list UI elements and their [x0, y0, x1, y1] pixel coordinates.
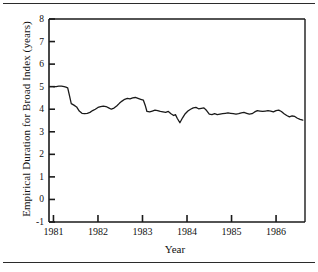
x-tick-label-1984: 1984 — [167, 226, 207, 237]
y-axis-title: Empirical Duration for Broad Index (year… — [20, 14, 32, 224]
chart-plot-area: 876543210-1 198119821983198419851986 Emp… — [0, 0, 318, 272]
x-tick-label-1983: 1983 — [122, 226, 162, 237]
x-tick-label-1986: 1986 — [256, 226, 296, 237]
x-tick-label-1985: 1985 — [212, 226, 252, 237]
x-tick-label-1981: 1981 — [33, 226, 73, 237]
x-tick-label-1982: 1982 — [78, 226, 118, 237]
axes-group — [49, 19, 305, 222]
data-series-line — [53, 86, 302, 123]
x-axis-title: Year — [44, 243, 306, 255]
figure-container: 876543210-1 198119821983198419851986 Emp… — [0, 0, 318, 272]
tick-marks-group — [49, 19, 276, 222]
